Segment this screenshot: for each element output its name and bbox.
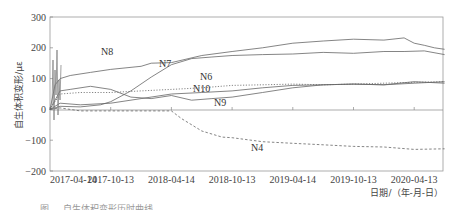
series-label-n7: N7 bbox=[159, 58, 171, 69]
y-tick-label: −100 bbox=[25, 135, 46, 146]
y-tick-label: 300 bbox=[31, 12, 46, 23]
early-fluctuation bbox=[52, 50, 61, 120]
y-axis-ticks: 3002001000−100−200 bbox=[25, 12, 53, 177]
series-n6 bbox=[50, 82, 445, 110]
x-tick-label: 2019-04-14 bbox=[269, 174, 316, 185]
series-label-n8: N8 bbox=[101, 46, 113, 57]
series-label-n4: N4 bbox=[251, 142, 263, 153]
series-n7 bbox=[50, 51, 445, 110]
x-axis-ticks: 2017-04-142017-10-132018-04-142018-10-13… bbox=[50, 107, 438, 185]
x-tick-label: 2019-10-13 bbox=[330, 174, 377, 185]
series-label-n6: N6 bbox=[200, 71, 212, 82]
series-labels: N8N7N6N10N9N4 bbox=[101, 46, 263, 153]
y-tick-label: 200 bbox=[31, 42, 46, 53]
series-label-n9: N9 bbox=[214, 97, 226, 108]
x-axis-title: 日期/（年-月-日） bbox=[370, 187, 443, 198]
figure-caption: 图 ... 自生体积变形历时曲线 bbox=[40, 202, 440, 210]
x-tick-label: 2017-10-13 bbox=[87, 174, 134, 185]
y-axis-title: 自生体积变形/με bbox=[13, 61, 24, 129]
line-chart: 3002001000−100−200 2017-04-142017-10-132… bbox=[0, 0, 457, 210]
series-n9 bbox=[50, 82, 445, 110]
x-tick-label: 2020-04-13 bbox=[391, 174, 438, 185]
series-n10 bbox=[50, 82, 445, 110]
x-tick-label: 2018-10-13 bbox=[209, 174, 256, 185]
series-n4 bbox=[50, 108, 445, 149]
y-tick-label: −200 bbox=[25, 166, 46, 177]
x-tick-label: 2018-04-14 bbox=[148, 174, 195, 185]
y-tick-label: 100 bbox=[31, 73, 46, 84]
series-label-n10: N10 bbox=[193, 83, 210, 94]
y-tick-label: 0 bbox=[41, 104, 46, 115]
